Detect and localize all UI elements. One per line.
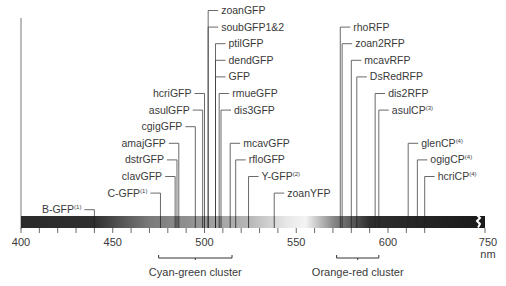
protein-name: mcavRFP (364, 54, 410, 66)
axis-tick-label: 550 (287, 236, 305, 248)
protein-label: asulCP(3) (392, 104, 433, 116)
axis-tick-label: 600 (379, 236, 397, 248)
protein-label: rhoRFP (353, 21, 389, 33)
cluster-bracket (159, 255, 232, 260)
protein-label: amajGFP (121, 137, 165, 149)
cluster-label: Orange-red cluster (312, 266, 404, 278)
protein-name: glenCP (421, 137, 455, 149)
protein-label: rmueGFP (232, 87, 278, 99)
protein-label: DsRedRFP (370, 70, 423, 82)
cluster-brackets: Cyan-green clusterOrange-red cluster (149, 255, 404, 278)
protein-label: ptilGFP (229, 37, 264, 49)
protein-label: ogigCP(4) (430, 153, 472, 165)
axis-tick-label: 750 (479, 236, 497, 248)
protein-name: dis3GFP (234, 104, 275, 116)
protein-name: asulGFP (149, 104, 190, 116)
footnote-marker: (2) (293, 171, 300, 177)
protein-label: Y-GFP(2) (262, 170, 300, 182)
protein-name: DsRedRFP (370, 70, 423, 82)
protein-name: C-GFP (107, 187, 140, 199)
protein-name: hcriCP (438, 170, 470, 182)
protein-label: mcavRFP (364, 54, 410, 66)
protein-name: GFP (229, 70, 251, 82)
protein-label: GFP (229, 70, 251, 82)
protein-label: dis2RFP (388, 87, 428, 99)
protein-label: B-GFP(1) (42, 203, 81, 215)
footnote-marker: (1) (74, 204, 81, 210)
protein-name: mcavGFP (243, 137, 290, 149)
protein-label: soubGFP1&2 (221, 21, 284, 33)
axis-tick-label: 500 (195, 236, 213, 248)
protein-name: rfloGFP (249, 153, 285, 165)
protein-label: dstrGFP (125, 153, 164, 165)
protein-name: clavGFP (122, 170, 162, 182)
emission-spectrum-chart: B-GFP(1)C-GFP(1)clavGFPdstrGFPamajGFPcgi… (0, 0, 506, 286)
protein-name: zoan2RFP (355, 37, 405, 49)
footnote-marker: (1) (140, 188, 147, 194)
axis-tick-label: 400 (12, 236, 30, 248)
axis-tick-labels: 400450500550600750 (12, 236, 497, 248)
protein-name: dendGFP (229, 54, 274, 66)
protein-name: amajGFP (121, 137, 165, 149)
protein-label: rfloGFP (249, 153, 285, 165)
protein-name: ptilGFP (229, 37, 264, 49)
protein-label: hcriGFP (153, 87, 192, 99)
footnote-marker: (4) (469, 171, 476, 177)
spectrum-bar (21, 216, 485, 228)
protein-name: zoanGFP (221, 4, 265, 16)
protein-label: zoanYFP (287, 187, 330, 199)
protein-name: dis2RFP (388, 87, 428, 99)
footnote-marker: (4) (456, 138, 463, 144)
protein-name: Y-GFP (262, 170, 293, 182)
protein-label: dis3GFP (234, 104, 275, 116)
protein-name: soubGFP1&2 (221, 21, 284, 33)
protein-name: ogigCP (430, 153, 464, 165)
protein-label: zoanGFP (221, 4, 265, 16)
protein-label: dendGFP (229, 54, 274, 66)
protein-name: rhoRFP (353, 21, 389, 33)
protein-name: dstrGFP (125, 153, 164, 165)
protein-name: rmueGFP (232, 87, 278, 99)
axis-tick-label: 450 (104, 236, 122, 248)
cluster-label: Cyan-green cluster (149, 266, 242, 278)
cluster-bracket (337, 255, 379, 260)
footnote-marker: (4) (465, 154, 472, 160)
protein-name: cgigGFP (141, 120, 182, 132)
protein-labels: B-GFP(1)C-GFP(1)clavGFPdstrGFPamajGFPcgi… (42, 4, 477, 215)
protein-label: zoan2RFP (355, 37, 405, 49)
protein-label: clavGFP (122, 170, 162, 182)
protein-label: C-GFP(1) (107, 187, 147, 199)
protein-name: zoanYFP (287, 187, 330, 199)
axis-ticks (21, 228, 485, 233)
protein-label: cgigGFP (141, 120, 182, 132)
footnote-marker: (3) (426, 105, 433, 111)
protein-label: glenCP(4) (421, 137, 463, 149)
protein-label: asulGFP (149, 104, 190, 116)
axis-unit-label: nm (480, 248, 495, 260)
protein-name: asulCP (392, 104, 426, 116)
protein-label: hcriCP(4) (438, 170, 477, 182)
protein-name: hcriGFP (153, 87, 192, 99)
protein-name: B-GFP (42, 203, 74, 215)
protein-label: mcavGFP (243, 137, 290, 149)
